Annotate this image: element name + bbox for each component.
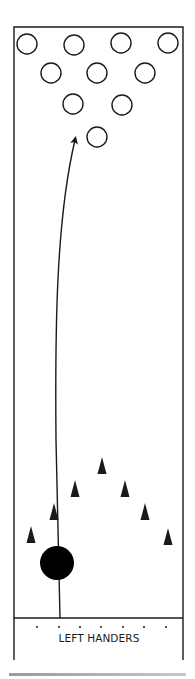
approach-dot xyxy=(79,626,81,628)
approach-dot xyxy=(143,626,145,628)
pin-icon xyxy=(64,35,84,55)
approach-dot xyxy=(165,626,167,628)
target-arrow-icon xyxy=(98,457,107,474)
pin-icon xyxy=(158,33,178,53)
target-arrow-icon xyxy=(71,480,80,497)
target-arrow-icon xyxy=(164,528,173,545)
lane-outline xyxy=(14,27,183,660)
pin-icon xyxy=(87,127,107,147)
target-arrow-icon xyxy=(141,503,150,520)
pin-icon xyxy=(87,63,107,83)
target-arrow-icon xyxy=(121,480,130,497)
approach-dot xyxy=(100,626,102,628)
bowling-lane-diagram xyxy=(0,0,195,679)
approach-dot xyxy=(122,626,124,628)
bottom-divider xyxy=(9,673,186,676)
bowling-ball xyxy=(40,546,74,580)
pin-icon xyxy=(111,33,131,53)
pin-icon xyxy=(112,95,132,115)
pin-deck xyxy=(17,33,178,147)
target-arrow-icon xyxy=(27,526,36,543)
approach-dot xyxy=(58,626,60,628)
approach-dot xyxy=(36,626,38,628)
approach-dots xyxy=(36,626,167,628)
pin-icon xyxy=(17,34,37,54)
pin-icon xyxy=(63,94,83,114)
left-handers-label: LEFT HANDERS xyxy=(14,632,184,644)
pin-icon xyxy=(135,63,155,83)
lane-border xyxy=(14,27,183,660)
pin-icon xyxy=(41,63,61,83)
target-arrows xyxy=(27,457,173,545)
